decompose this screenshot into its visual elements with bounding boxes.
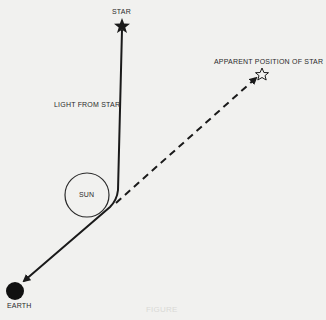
- light-path-line: [24, 30, 122, 281]
- apparent-star-icon: [256, 68, 269, 80]
- star-label: STAR: [112, 8, 131, 15]
- earth-circle: [6, 282, 24, 300]
- light-from-star-label: LIGHT FROM STAR: [54, 101, 120, 108]
- sun-label: SUN: [79, 191, 94, 198]
- figure-caption: FIGURE: [146, 305, 177, 314]
- apparent-star-label: APPARENT POSITION OF STAR: [214, 58, 323, 65]
- apparent-direction-dashed-line: [116, 78, 256, 203]
- light-deflection-diagram: [0, 0, 326, 320]
- earth-label: EARTH: [7, 302, 32, 309]
